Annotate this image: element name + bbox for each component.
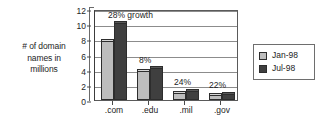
y-axis-title-line-3: millions xyxy=(8,64,80,76)
bar-gov-jul-98 xyxy=(222,94,235,100)
y-tick-mark xyxy=(87,41,91,42)
x-tick-label-edu: .edu xyxy=(130,105,170,115)
legend-item-jan98: Jan-98 xyxy=(259,49,309,62)
y-tick-label: 10 xyxy=(77,22,86,31)
y-tick-mark xyxy=(87,102,91,103)
annotation-gov: 22% xyxy=(209,80,226,90)
legend-item-jul98: Jul-98 xyxy=(259,62,309,75)
bar-top-cap xyxy=(186,89,199,92)
bar-edu-jan-98 xyxy=(137,71,150,100)
bar-body xyxy=(137,71,150,100)
bar-body xyxy=(186,91,199,100)
legend-swatch-jan98 xyxy=(259,52,267,60)
bar-group-com xyxy=(101,11,127,100)
annotation-mil: 24% xyxy=(174,77,191,87)
bar-top-cap xyxy=(137,69,150,72)
y-tick-mark xyxy=(87,86,91,87)
bar-body xyxy=(173,93,186,100)
bar-top-cap xyxy=(150,66,163,69)
legend-swatch-jul98 xyxy=(259,65,267,73)
bar-body xyxy=(114,23,127,100)
annotation-edu: 8% xyxy=(139,55,151,65)
x-tick-label-mil: .mil xyxy=(166,105,206,115)
y-tick-mark xyxy=(87,71,91,72)
legend-label-jul98: Jul-98 xyxy=(272,64,295,73)
bar-body xyxy=(150,68,163,100)
bar-top-cap xyxy=(114,21,127,24)
bar-gov-jan-98 xyxy=(209,95,222,100)
bar-top-cap xyxy=(222,92,235,95)
y-tick-mark xyxy=(87,56,91,57)
bar-top-cap xyxy=(101,39,114,42)
domain-names-bar-chart: # of domain names in millions 024681012 … xyxy=(0,0,327,131)
y-tick-label: 4 xyxy=(81,67,86,76)
bar-mil-jul-98 xyxy=(186,91,199,100)
bar-top-cap xyxy=(209,93,222,96)
y-axis-title-line-2: names in xyxy=(8,53,80,65)
bar-edu-jul-98 xyxy=(150,68,163,100)
y-tick-mark xyxy=(87,11,91,12)
y-axis-title: # of domain names in millions xyxy=(8,41,80,76)
legend: Jan-98 Jul-98 xyxy=(253,44,315,80)
annotation-com: 28% growth xyxy=(108,10,153,20)
bar-body xyxy=(101,41,114,100)
y-tick-mark xyxy=(87,26,91,27)
bar-com-jan-98 xyxy=(101,41,114,100)
y-tick-label: 6 xyxy=(81,52,86,61)
y-axis-title-line-1: # of domain xyxy=(8,41,80,53)
x-tick-label-com: .com xyxy=(94,105,134,115)
bar-mil-jan-98 xyxy=(173,93,186,100)
y-tick-label: 8 xyxy=(81,37,86,46)
y-tick-label: 12 xyxy=(77,7,86,16)
bar-top-cap xyxy=(173,91,186,94)
y-tick-label: 2 xyxy=(81,82,86,91)
x-tick-label-gov: .gov xyxy=(202,105,242,115)
y-tick-label: 0 xyxy=(81,98,86,107)
bar-com-jul-98 xyxy=(114,23,127,100)
legend-label-jan98: Jan-98 xyxy=(272,51,298,60)
